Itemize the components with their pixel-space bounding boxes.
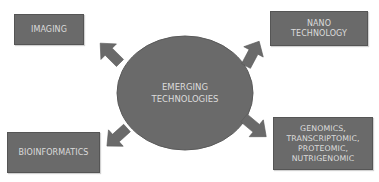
node-nano-label-line1: NANO (291, 19, 347, 29)
node-omics-label-line3: PROTEOMIC, (286, 144, 359, 154)
center-label: EMERGING TECHNOLOGIES (117, 36, 253, 150)
node-omics-label-line4: NUTRIGENOMIC (286, 154, 359, 164)
node-omics-label-line2: TRANSCRIPTOMIC, (286, 134, 359, 144)
node-nano-technology: NANO TECHNOLOGY (270, 11, 368, 46)
node-nano-label-line2: TECHNOLOGY (291, 29, 347, 39)
emerging-technologies-diagram: EMERGING TECHNOLOGIES IMAGING NANO TECHN… (0, 0, 379, 182)
node-omics: GENOMICS, TRANSCRIPTOMIC, PROTEOMIC, NUT… (273, 117, 373, 170)
node-omics-label-line1: GENOMICS, (286, 124, 359, 134)
node-bioinformatics-label: BIOINFORMATICS (18, 148, 88, 158)
center-label-line2: TECHNOLOGIES (152, 93, 219, 105)
node-imaging: IMAGING (14, 14, 84, 45)
center-label-line1: EMERGING (162, 81, 208, 93)
node-bioinformatics: BIOINFORMATICS (7, 132, 100, 173)
node-imaging-label: IMAGING (31, 25, 67, 35)
